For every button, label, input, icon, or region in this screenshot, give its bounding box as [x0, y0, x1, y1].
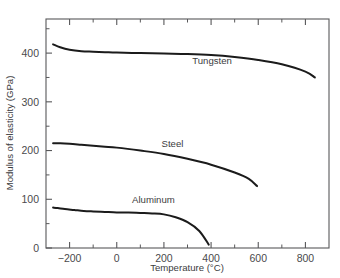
y-axis-title: Modulus of elasticity (GPa) [4, 76, 15, 191]
series-curve-steel [53, 143, 257, 186]
y-tick-label-4: 400 [21, 47, 39, 59]
y-axis-tick-labels: 0100200300400 [21, 47, 39, 254]
x-tick-label-5: 800 [297, 252, 315, 264]
y-tick-label-1: 100 [21, 193, 39, 205]
modulus-vs-temperature-chart: −2000200400600800 0100200300400 Tungsten… [0, 0, 340, 278]
y-axis-major-ticks [46, 53, 52, 248]
x-tick-label-4: 600 [249, 252, 267, 264]
series-curve-tungsten [53, 44, 315, 77]
data-series-curves [53, 44, 315, 244]
series-label-tungsten: Tungsten [192, 55, 232, 66]
series-inline-labels: TungstenSteelAluminum [132, 55, 232, 205]
series-label-steel: Steel [162, 138, 184, 149]
series-curve-aluminum [53, 208, 209, 245]
y-tick-label-0: 0 [33, 242, 39, 254]
y-tick-label-3: 300 [21, 96, 39, 108]
series-label-aluminum: Aluminum [132, 194, 175, 205]
x-tick-label-1: 0 [114, 252, 120, 264]
chart-canvas: −2000200400600800 0100200300400 Tungsten… [0, 0, 340, 278]
x-tick-label-0: −200 [58, 252, 82, 264]
x-axis-title: Temperature (°C) [150, 262, 224, 273]
y-tick-label-2: 200 [21, 144, 39, 156]
